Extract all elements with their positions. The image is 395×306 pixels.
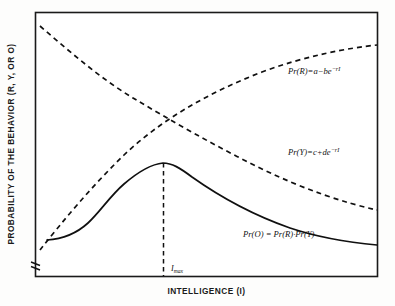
x-axis-title: INTELLIGENCE (I) [167, 286, 245, 296]
chart-canvas: Imax Pr(R)=a−be−rI Pr(Y)=c+de−rI Pr(O) =… [0, 0, 395, 306]
y-axis-title: PROBABILITY OF THE BEHAVIOR (R, Y, OR O) [6, 43, 16, 244]
imax-subscript: max [174, 268, 184, 274]
formula-pr-r-exponent: −rI [332, 65, 342, 72]
formula-pr-r-lhs: Pr(R) [287, 66, 308, 76]
formula-pr-r-be: be [324, 66, 332, 76]
formula-pr-y-lhs: Pr(Y) [287, 147, 307, 157]
figure-container: Imax Pr(R)=a−be−rI Pr(Y)=c+de−rI Pr(O) =… [0, 0, 395, 306]
formula-pr-y-de: de [323, 147, 331, 157]
formula-pr-o: Pr(O) = Pr(R)·Pr(Y) [242, 229, 315, 239]
formula-pr-y-exponent: −rI [331, 146, 341, 153]
